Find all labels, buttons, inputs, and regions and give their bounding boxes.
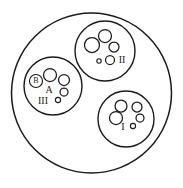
cluster-iii-sublabel-a: A	[45, 84, 53, 95]
figure-diagram: BAIIIIII	[0, 0, 183, 188]
cluster-ii-vesicle-3	[109, 42, 119, 52]
cluster-iii-vesicle-4	[55, 97, 60, 102]
cluster-i: I	[98, 91, 154, 147]
cluster-iii-vesicle-3	[60, 88, 68, 96]
cluster-ii-vesicle-1	[85, 38, 100, 53]
cluster-ii-vesicle-5	[97, 59, 101, 63]
cluster-iii-badge-label: B	[33, 76, 38, 85]
cluster-iii-vesicle-1	[44, 69, 57, 82]
cluster-i-boundary	[98, 91, 154, 147]
cluster-i-vesicle-2	[132, 102, 142, 112]
cluster-i-label: I	[121, 121, 124, 132]
cluster-ii-label: II	[119, 54, 126, 65]
cluster-ii-vesicle-2	[99, 30, 112, 43]
cluster-iii-label: III	[38, 95, 48, 106]
cluster-ii-vesicle-4	[106, 56, 115, 65]
cluster-iii: BAIII	[24, 57, 82, 115]
cluster-ii: II	[75, 21, 135, 81]
cluster-i-vesicle-4	[136, 114, 144, 122]
cluster-i-vesicle-5	[130, 123, 135, 128]
figure-canvas: BAIIIIII	[0, 0, 183, 188]
diagram-layer: BAIIIIII	[12, 13, 172, 173]
cluster-iii-vesicle-2	[59, 75, 70, 86]
cluster-i-vesicle-1	[115, 100, 127, 112]
